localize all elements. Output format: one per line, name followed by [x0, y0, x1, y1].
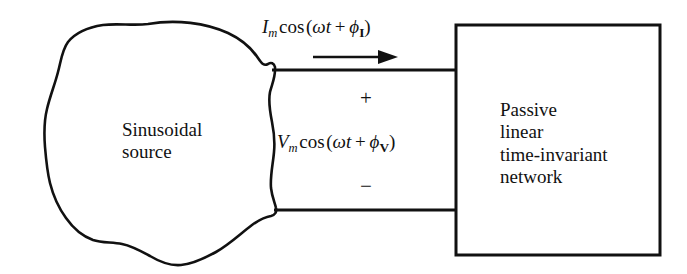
polarity-minus-sign: −	[360, 174, 372, 199]
voltage-expression-label: Vm cos (ωt + ϕV)	[277, 131, 395, 156]
current-close-paren: )	[364, 16, 370, 37]
current-omega-symbol: ω	[312, 16, 325, 37]
voltage-cos-function: cos	[299, 131, 324, 152]
voltage-close-paren: )	[389, 131, 395, 152]
passive-network-label: Passive linear time-invariant network	[500, 99, 608, 189]
network-label-line-2: linear	[500, 121, 608, 143]
current-cos-function: cos	[279, 16, 304, 37]
current-amplitude-subscript: m	[268, 26, 277, 40]
current-expression-label: Im cos (ωt + ϕI)	[262, 16, 371, 41]
voltage-phase-subscript: V	[379, 140, 389, 155]
source-label-line-1: Sinusoidal	[122, 119, 202, 141]
source-label-line-2: source	[122, 141, 202, 163]
network-label-line-3: time-invariant	[500, 144, 608, 166]
circuit-diagram: Sinusoidal source Im cos (ωt + ϕI) + Vm …	[0, 0, 687, 274]
network-label-line-4: network	[500, 166, 608, 188]
voltage-omega-symbol: ω	[333, 131, 346, 152]
current-phi-symbol: ϕ	[349, 16, 359, 37]
current-direction-arrow	[313, 50, 398, 64]
current-time-variable: t	[326, 16, 331, 37]
voltage-amplitude-subscript: m	[289, 141, 298, 155]
current-plus-operator: +	[335, 16, 346, 37]
voltage-symbol: V	[277, 131, 289, 152]
voltage-plus-operator: +	[355, 131, 366, 152]
network-label-line-1: Passive	[500, 99, 608, 121]
voltage-phi-symbol: ϕ	[370, 131, 380, 152]
voltage-time-variable: t	[346, 131, 351, 152]
polarity-plus-sign: +	[360, 86, 372, 111]
sinusoidal-source-label: Sinusoidal source	[122, 119, 202, 164]
